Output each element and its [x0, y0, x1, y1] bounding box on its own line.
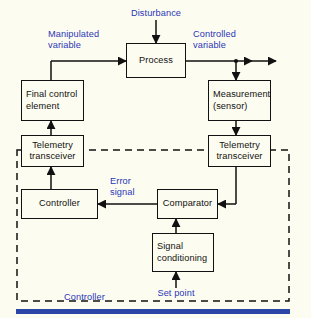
block-final-control-element[interactable]: Final control element — [21, 80, 84, 121]
block-measurement-sensor[interactable]: Measurement (sensor) — [208, 80, 271, 121]
label-controller-group: Controller — [64, 292, 154, 303]
block-controller-label: Controller — [22, 198, 97, 210]
figure-canvas: Process Final control element Measuremen… — [0, 0, 311, 318]
block-controller[interactable]: Controller — [21, 189, 98, 219]
block-telemetry-transceiver-right-label: Telemetry transceiver — [209, 140, 270, 163]
bottom-accent-bar — [16, 309, 290, 314]
block-final-control-element-label: Final control element — [22, 89, 83, 112]
label-disturbance: Disturbance — [118, 8, 194, 19]
label-error-signal: Error signal — [110, 176, 154, 198]
block-process-label: Process — [127, 55, 185, 67]
block-signal-conditioning-label: Signal conditioning — [153, 241, 213, 264]
block-process[interactable]: Process — [126, 43, 186, 78]
block-telemetry-transceiver-right[interactable]: Telemetry transceiver — [208, 135, 271, 167]
label-controlled-variable: Controlled variable — [193, 29, 273, 51]
label-manipulated-variable: Manipulated variable — [48, 29, 128, 51]
block-telemetry-transceiver-left[interactable]: Telemetry transceiver — [21, 135, 84, 167]
junction-dot-controlled-variable — [234, 59, 238, 63]
block-comparator[interactable]: Comparator — [157, 189, 218, 219]
block-telemetry-transceiver-left-label: Telemetry transceiver — [22, 140, 83, 163]
controller-group-boundary — [17, 150, 289, 301]
block-measurement-sensor-label: Measurement (sensor) — [209, 89, 270, 112]
block-signal-conditioning[interactable]: Signal conditioning — [152, 233, 214, 272]
block-comparator-label: Comparator — [158, 198, 217, 210]
